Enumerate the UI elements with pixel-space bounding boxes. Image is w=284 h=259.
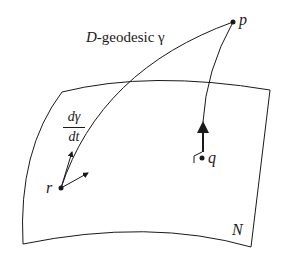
p-to-q-curve bbox=[203, 22, 233, 122]
point-r-dot bbox=[59, 186, 64, 191]
surface-n-label: N bbox=[232, 222, 243, 238]
tangent-fraction-label: dγ dt bbox=[63, 110, 85, 144]
point-q-label: q bbox=[208, 150, 216, 166]
diagram-canvas: D-geodesic γ p q r N dγ dt bbox=[0, 0, 284, 259]
tangent-denominator: dt bbox=[63, 130, 85, 144]
tangent-numerator: dγ bbox=[63, 110, 85, 124]
point-r-label: r bbox=[46, 180, 52, 196]
fraction-bar bbox=[63, 127, 85, 128]
geodesic-label-prefix: D bbox=[86, 29, 97, 45]
geodesic-label: D-geodesic γ bbox=[86, 30, 165, 45]
point-p-label: p bbox=[239, 12, 247, 28]
point-q-dot bbox=[200, 156, 205, 161]
geodesic-label-text: -geodesic γ bbox=[97, 29, 165, 45]
point-p-dot bbox=[231, 20, 236, 25]
